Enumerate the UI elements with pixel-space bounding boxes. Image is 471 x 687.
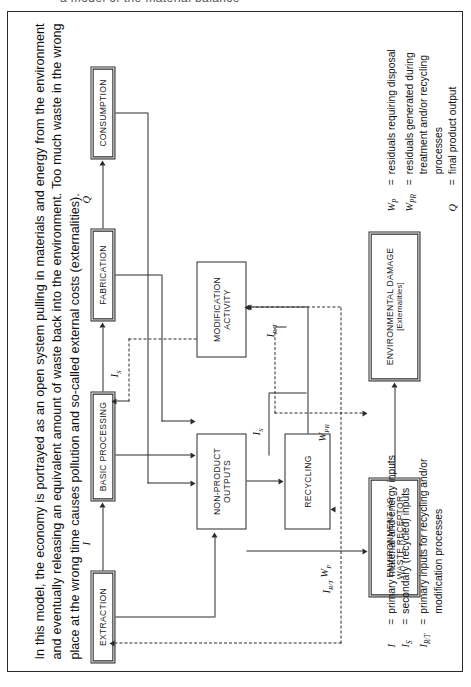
flow-label-is-lower: IS — [250, 428, 264, 435]
legend-text: residuals generated during treatment and… — [402, 11, 445, 174]
box-non-product-outputs-label-1: NON-PRODUCT — [211, 447, 222, 514]
box-modification-activity-label-2: ACTIVITY — [221, 289, 232, 330]
is-dashed-h — [128, 338, 129, 401]
drop-basic-processing — [115, 454, 190, 455]
drop-extraction-h — [214, 537, 215, 617]
drop-fabrication — [115, 274, 161, 275]
legend-row: WP = residuals requiring disposal — [384, 11, 402, 211]
legend-text: primary material and energy inputs — [384, 437, 398, 613]
figure-frame: In this model, the economy is portrayed … — [7, 11, 463, 672]
arrow-environment-to-damage — [391, 382, 397, 387]
is-dashed-hook — [116, 400, 129, 401]
legend-left-column: I = primary material and energy inputs I… — [384, 437, 445, 647]
drop-consumption-v2 — [147, 482, 190, 483]
irt-dashed-left — [114, 642, 341, 643]
arrow-fabrication-to-npo — [190, 418, 195, 424]
legend-text: primary inputs for recycling and/or modi… — [416, 437, 444, 613]
legend-symbol: IS — [398, 624, 416, 647]
arrow-wp-to-environment — [362, 548, 367, 554]
is-dashed-v — [128, 338, 196, 339]
arrow-consumption-to-npo — [190, 480, 195, 486]
wp-line-v — [246, 550, 362, 551]
arrow-wpr-to-damage — [362, 410, 367, 416]
legend-text: residuals requiring disposal — [384, 11, 402, 174]
flow-label-i: I — [80, 542, 91, 546]
flow-label-q: Q — [80, 195, 91, 203]
flow-fabrication-to-consumption — [102, 165, 103, 228]
flow-label-wpr: WPR — [316, 424, 330, 441]
legend-row: IR/T = primary inputs for recycling and/… — [416, 437, 444, 647]
wpr-dashed-h — [274, 327, 275, 413]
box-basic-processing-label: BASIC PROCESSING — [97, 401, 108, 490]
drop-consumption-h — [147, 112, 148, 483]
box-consumption[interactable]: CONSUMPTION — [90, 66, 115, 159]
recycling-to-modification-v — [252, 306, 308, 307]
wpr-dashed-v — [274, 412, 362, 413]
box-non-product-outputs-label-2: OUTPUTS — [221, 460, 232, 503]
recycling-to-modification-h — [307, 307, 308, 433]
legend-equals: = — [398, 613, 416, 624]
legend-symbol: IR/T — [416, 624, 444, 647]
flow-basic-to-fabrication — [102, 327, 103, 391]
arrow-irt-to-recycling — [330, 506, 335, 512]
box-environmental-damage[interactable]: ENVIRONMENTAL DAMAGE [Externalities] — [368, 231, 420, 381]
legend-equals: = — [416, 613, 444, 624]
box-modification-activity[interactable]: MODIFICATION ACTIVITY — [196, 261, 246, 357]
legend-equals: = — [384, 613, 398, 624]
arrow-fabrication-to-consumption — [99, 160, 105, 165]
box-non-product-outputs[interactable]: NON-PRODUCT OUTPUTS — [196, 433, 246, 529]
page-top-cutoff-text: a model of the material balance — [60, 0, 360, 3]
legend-equals: = — [402, 174, 445, 185]
drop-extraction — [115, 616, 214, 617]
box-extraction[interactable]: EXTRACTION — [90, 570, 115, 663]
legend-row: I = primary material and energy inputs — [384, 437, 398, 647]
box-fabrication[interactable]: FABRICATION — [90, 228, 115, 321]
rotated-figure-stage: In this model, the economy is portrayed … — [10, 14, 460, 669]
legend-equals: = — [384, 174, 402, 185]
irt-dashed-main — [340, 307, 341, 643]
legend-symbol: WPR — [402, 185, 445, 211]
box-fabrication-label: FABRICATION — [97, 245, 108, 304]
legend-right-column: WP = residuals requiring disposal WPR = … — [384, 11, 459, 211]
wpr-hook — [274, 326, 286, 327]
is-solid-h — [268, 393, 269, 455]
box-recycling-label: RECYCLING — [302, 455, 313, 507]
drop-fabrication-h — [161, 274, 162, 421]
flow-label-irt-right: IR/T — [264, 323, 278, 337]
box-modification-activity-label-1: MODIFICATION — [211, 277, 222, 342]
arrow-is-to-basic — [111, 398, 116, 404]
legend-equals: = — [445, 174, 459, 185]
box-environmental-damage-label-1: ENVIRONMENTAL DAMAGE — [384, 247, 395, 365]
box-recycling[interactable]: RECYCLING — [284, 433, 330, 529]
arrow-recycling-to-modification — [246, 304, 251, 310]
box-basic-processing[interactable]: BASIC PROCESSING — [90, 391, 115, 501]
legend-row: Q = final product output — [445, 11, 459, 211]
drop-fabrication-v2 — [161, 420, 190, 421]
legend-symbol: WP — [384, 185, 402, 211]
arrow-extraction-to-basic — [99, 502, 105, 507]
box-consumption-label: CONSUMPTION — [97, 79, 108, 146]
flow-label-wp: WP — [318, 564, 332, 577]
legend-symbol: Q — [445, 185, 459, 211]
box-environmental-damage-label-2: [Externalities] — [394, 282, 405, 331]
arrow-npo-to-recycling — [278, 478, 283, 484]
flow-diagram-canvas: EXTRACTION BASIC PROCESSING FABRICATION … — [68, 14, 460, 669]
arrow-basic-to-npo — [190, 452, 195, 458]
legend-symbol: I — [384, 624, 398, 647]
flow-label-is-upper: IS — [108, 370, 122, 377]
arrow-basic-to-fabrication — [99, 322, 105, 327]
legend-row: IS = secondary (recycled) inputs — [398, 437, 416, 647]
flow-extraction-to-basic — [102, 507, 103, 570]
arrow-irt-to-extraction — [109, 640, 114, 646]
legend-row: WPR = residuals generated during treatme… — [402, 11, 445, 211]
drop-consumption — [115, 112, 147, 113]
box-extraction-label: EXTRACTION — [97, 588, 108, 646]
arrow-extraction-to-npo — [211, 532, 217, 537]
npo-to-recycling — [246, 480, 278, 481]
flow-label-irt-left: IR/T — [320, 579, 334, 593]
legend-text: secondary (recycled) inputs — [398, 437, 416, 613]
legend-text: final product output — [445, 11, 459, 174]
